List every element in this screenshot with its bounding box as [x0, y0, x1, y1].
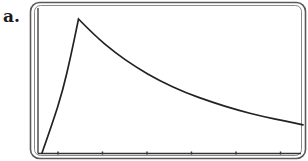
function-curve: [42, 19, 303, 153]
graph-window: [0, 0, 308, 161]
frame-inner: [35, 6, 302, 156]
frame-outer: [31, 3, 306, 159]
